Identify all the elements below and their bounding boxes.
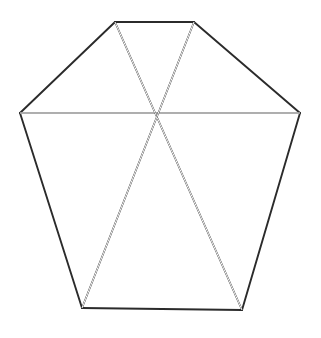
chord-topleft-botright-gap [115,22,242,310]
edge-lower-right [242,113,300,310]
edge-lower-left [20,113,82,308]
figure-canvas [0,0,321,338]
chord-group [20,22,300,310]
hull-edge-group [20,22,300,310]
edge-upper-left [20,22,115,113]
edge-bottom [82,308,242,310]
line-figure-svg [0,0,321,338]
chord-topleft-botright [115,22,242,310]
edge-upper-right [194,22,300,113]
